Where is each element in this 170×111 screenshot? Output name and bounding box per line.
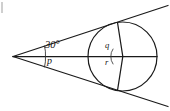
center-upper-angle-label: q xyxy=(105,41,109,50)
geometry-figure-canvas xyxy=(0,0,170,111)
chord-upper-half xyxy=(118,23,123,57)
center-lower-angle-label: r xyxy=(105,58,108,67)
geometry-figure: 30° p q r xyxy=(0,0,170,111)
lower-tangent-line xyxy=(13,57,168,107)
apex-angle-arc-lower xyxy=(45,57,46,68)
upper-tangent-line xyxy=(13,6,168,57)
apex-lower-angle-label: p xyxy=(47,56,52,66)
apex-angle-label: 30° xyxy=(45,40,59,51)
center-angle-arc-r xyxy=(111,57,113,65)
center-angle-arc-q xyxy=(111,49,113,57)
chord-lower-half xyxy=(118,57,123,91)
